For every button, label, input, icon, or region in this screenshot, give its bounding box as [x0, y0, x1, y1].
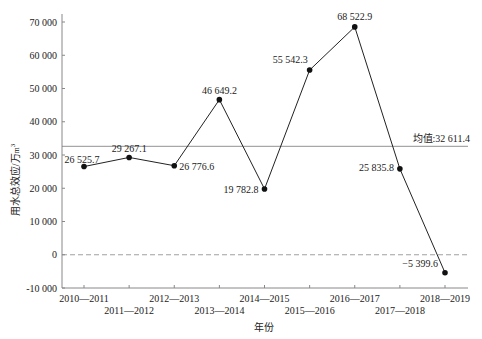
y-tick-label: 30 000 — [30, 150, 58, 161]
data-point-marker — [262, 186, 268, 192]
x-axis-title: 年份 — [254, 321, 274, 333]
data-point-marker — [171, 163, 177, 169]
x-tick-label: 2012—2013 — [149, 293, 199, 304]
y-axis-title-main: 用水总效应/万 — [9, 153, 21, 216]
y-tick-label: 50 000 — [30, 83, 58, 94]
data-point-marker — [81, 164, 87, 170]
data-value-label: 26 776.6 — [179, 161, 214, 172]
mean-label: 均值:32 611.4 — [413, 132, 470, 144]
data-labels: 26 525.729 267.126 776.646 649.219 782.8… — [65, 11, 439, 269]
x-tick-label: 2014—2015 — [240, 293, 290, 304]
x-tick-label: 2013—2014 — [194, 305, 244, 316]
svg-text:用水总效应/万m3: 用水总效应/万m3 — [9, 143, 21, 216]
data-value-label: 26 525.7 — [65, 154, 100, 165]
data-value-label: 68 522.9 — [337, 11, 372, 22]
data-point-marker — [217, 97, 223, 103]
x-tick-label: 2016—2017 — [330, 293, 380, 304]
line-chart: -10 000010 00020 00030 00040 00050 00060… — [0, 0, 482, 339]
data-value-label: −5 399.6 — [402, 258, 438, 269]
y-axis-title: 用水总效应/万m3 — [9, 143, 21, 216]
data-point-marker — [397, 166, 403, 172]
y-tick-label: 20 000 — [30, 183, 58, 194]
x-tick-label: 2010—2011 — [59, 293, 109, 304]
y-tick-label: 60 000 — [30, 50, 58, 61]
data-value-label: 46 649.2 — [202, 85, 237, 96]
y-axis: -10 000010 00020 00030 00040 00050 00060… — [26, 14, 65, 294]
y-tick-label: -10 000 — [26, 283, 57, 294]
x-tick-label: 2015—2016 — [285, 305, 335, 316]
y-tick-label: 0 — [52, 249, 57, 260]
data-point-marker — [307, 67, 313, 73]
data-point-marker — [352, 24, 358, 30]
data-value-label: 29 267.1 — [112, 143, 147, 154]
x-tick-label: 2018—2019 — [420, 293, 470, 304]
x-tick-label: 2011—2012 — [104, 305, 154, 316]
x-tick-label: 2017—2018 — [375, 305, 425, 316]
y-tick-label: 70 000 — [30, 17, 58, 28]
y-axis-title-sup: 3 — [9, 143, 17, 147]
data-point-marker — [126, 155, 132, 161]
x-axis: 2010—20112011—20122012—20132013—20142014… — [59, 285, 470, 316]
data-point-marker — [442, 270, 448, 276]
data-value-label: 55 542.3 — [273, 54, 308, 65]
y-tick-label: 40 000 — [30, 116, 58, 127]
data-value-label: 25 835.8 — [359, 162, 394, 173]
y-tick-label: 10 000 — [30, 216, 58, 227]
data-value-label: 19 782.8 — [224, 184, 259, 195]
